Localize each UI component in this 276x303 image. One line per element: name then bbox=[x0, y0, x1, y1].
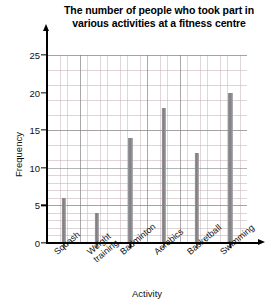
bar-chart: The number of people who took part in va… bbox=[0, 0, 276, 303]
y-tick-mark bbox=[41, 242, 46, 243]
y-axis-line bbox=[46, 30, 48, 244]
y-tick-mark bbox=[41, 167, 46, 168]
bar bbox=[128, 138, 132, 243]
chart-title-line-2: various activities at a fitness centre bbox=[72, 17, 246, 29]
y-tick-mark bbox=[41, 205, 46, 206]
y-tick-label: 20 bbox=[16, 87, 40, 98]
bar bbox=[228, 93, 232, 243]
y-tick-mark bbox=[41, 92, 46, 93]
plot-area bbox=[47, 55, 247, 243]
y-tick-label: 5 bbox=[16, 200, 40, 211]
y-tick-label: 25 bbox=[16, 50, 40, 61]
x-axis-arrow-icon bbox=[258, 239, 265, 245]
y-tick-mark bbox=[41, 54, 46, 55]
y-axis-arrow-icon bbox=[43, 24, 49, 31]
y-axis-title: Frequency bbox=[13, 115, 24, 195]
chart-title-line-1: The number of people who took part in bbox=[64, 4, 254, 16]
y-tick-label: 0 bbox=[16, 238, 40, 249]
bar bbox=[162, 108, 166, 243]
chart-title: The number of people who took part in va… bbox=[46, 4, 272, 30]
x-axis-title: Activity bbox=[47, 288, 247, 299]
y-tick-mark bbox=[41, 130, 46, 131]
bar bbox=[195, 153, 199, 243]
